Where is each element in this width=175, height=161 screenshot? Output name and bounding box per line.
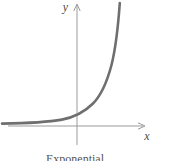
x-axis-label: x [143,129,150,143]
exponential-curve [2,3,120,124]
y-axis-label: y [62,0,69,14]
figure-caption: Exponential [46,152,105,161]
exponential-growth-figure: y x Exponential [0,0,175,161]
exponential-graph: y x Exponential [0,0,175,161]
